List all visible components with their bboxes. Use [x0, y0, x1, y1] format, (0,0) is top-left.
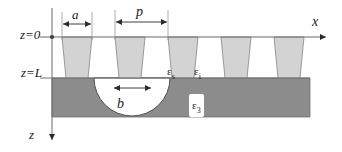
ridge-4 [221, 37, 251, 78]
ridge-2 [115, 37, 145, 78]
epsilon-i-subscript: i [199, 72, 201, 81]
dimension-p-label: p [136, 5, 143, 19]
z-axis-label: z [29, 128, 34, 141]
z-zero-label: z=0 [20, 28, 40, 41]
substrate-slab [52, 78, 310, 117]
x-axis-label: x [312, 15, 318, 29]
epsilon-s-subscript: s [172, 72, 175, 81]
grating-diagram-figure: z=0 z=L x z a p b εs εi ε3 [0, 0, 342, 152]
epsilon-i-label: εi [194, 62, 201, 81]
ridge-1 [62, 37, 92, 78]
ridge-5 [274, 37, 304, 78]
epsilon-3-label: ε3 [189, 94, 204, 117]
dimension-a-label: a [72, 8, 79, 21]
z-l-label: z=L [21, 66, 42, 79]
epsilon-s-label: εs [167, 62, 175, 81]
dimension-b-label: b [117, 97, 124, 111]
grating-ridges [62, 37, 304, 78]
epsilon-3-subscript: 3 [197, 106, 201, 115]
